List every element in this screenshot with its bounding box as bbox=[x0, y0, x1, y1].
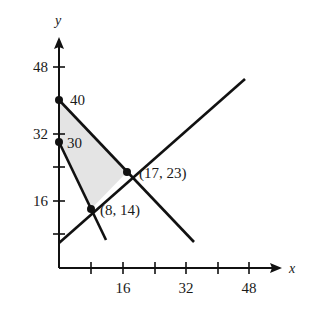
point-label-17-23: (17, 23) bbox=[139, 165, 187, 182]
vertex-0-30 bbox=[55, 138, 63, 146]
y-tick-label-32: 32 bbox=[33, 126, 48, 142]
vertex-8-14 bbox=[87, 205, 95, 213]
point-label-8-14: (8, 14) bbox=[100, 202, 140, 219]
x-tick-label-48: 48 bbox=[242, 280, 257, 296]
feasible-region-graph: 16 32 48 16 32 48 x y 40 30 (17, 23) (8,… bbox=[0, 0, 310, 311]
x-tick-label-32: 32 bbox=[179, 280, 194, 296]
vertex-17-23 bbox=[123, 168, 131, 176]
y-tick-label-16: 16 bbox=[33, 193, 49, 209]
y-axis-label: y bbox=[53, 13, 62, 28]
x-tick-label-16: 16 bbox=[116, 280, 132, 296]
point-label-30: 30 bbox=[67, 135, 82, 151]
vertex-0-40 bbox=[55, 96, 63, 104]
point-label-40: 40 bbox=[70, 92, 85, 108]
x-axis-label: x bbox=[288, 261, 296, 276]
y-tick-label-48: 48 bbox=[33, 59, 48, 75]
